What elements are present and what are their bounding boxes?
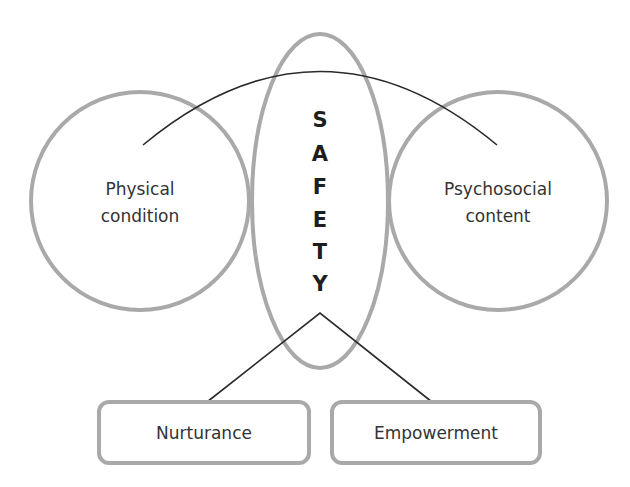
empowerment-box: Empowerment	[332, 402, 540, 463]
nurturance-label: Nurturance	[156, 423, 252, 443]
safety-letter: Y	[311, 272, 328, 296]
safety-word: S A F E T Y	[311, 108, 328, 296]
content-label: content	[465, 206, 530, 226]
nurturance-box: Nurturance	[99, 402, 309, 463]
safety-letter: E	[313, 208, 327, 232]
physical-label: Physical	[105, 179, 174, 199]
empowerment-label: Empowerment	[374, 423, 498, 443]
psychosocial-label: Psychosocial	[444, 179, 552, 199]
safety-letter: F	[313, 175, 327, 199]
physical-condition-circle	[31, 92, 249, 310]
psychosocial-content-circle	[389, 92, 607, 310]
safety-letter: T	[313, 240, 328, 264]
safety-letter: S	[312, 108, 327, 132]
safety-letter: A	[312, 142, 329, 166]
safety-diagram: S A F E T Y Physical condition Psychosoc…	[0, 0, 630, 487]
branch-connector	[207, 313, 432, 402]
safety-ellipse	[252, 34, 388, 368]
condition-label: condition	[101, 206, 180, 226]
